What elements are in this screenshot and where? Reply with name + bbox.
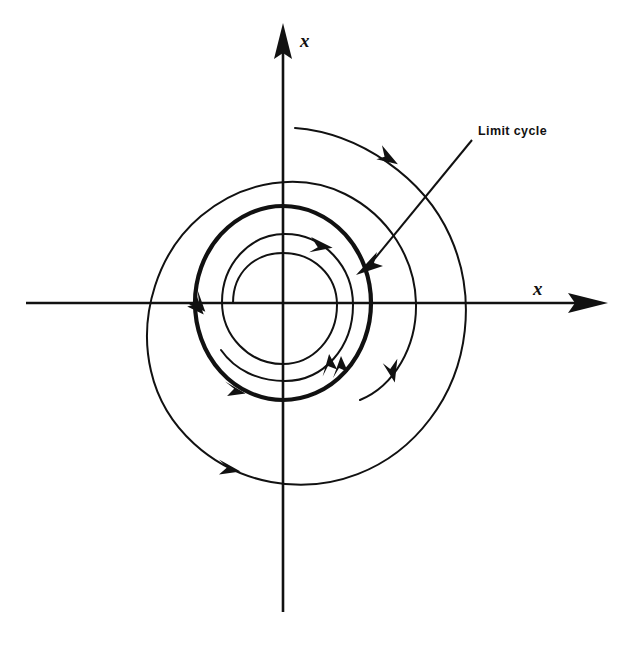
horizontal-axis-label: x (532, 278, 543, 299)
vertical-axis-label: x (299, 30, 310, 51)
figure-background (0, 0, 633, 650)
annotation-text: Limit cycle (478, 124, 547, 138)
limit-cycle-phase-diagram: x x Limit cycle (0, 0, 633, 650)
